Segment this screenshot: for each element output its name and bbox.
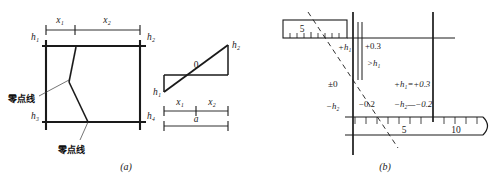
label-plus-h1: +h₁ (338, 42, 351, 52)
label-minus-value: −0.2 (359, 99, 375, 109)
wedge-zero-label: 0 (194, 60, 199, 70)
zero-line-upper (69, 47, 76, 82)
wedge-dimension-label-a: a (194, 114, 199, 124)
caption-panel-b: (b) (379, 161, 391, 173)
lower-ruler-scale-label-10: 10 (451, 125, 461, 135)
panel-a-left-diagram: x₁ x₂ h₁ h₂ h₃ h₄ 零点线 零点线 (7, 15, 156, 155)
lower-ruler-scale-label-5: 5 (402, 125, 407, 135)
corner-label-h3-bottom-left: h₃ (31, 111, 39, 121)
label-plus-value: +0.3 (365, 41, 382, 51)
annotation-zero-line-upper: 零点线 (7, 93, 35, 104)
panel-a-right-diagram: 0 h₁ h₂ x₁ x₂ a (153, 40, 241, 131)
wedge-label-h1: h₁ (153, 87, 161, 97)
corner-label-h4-bottom-right: h₄ (147, 111, 155, 121)
wedge-label-h2: h₂ (232, 40, 241, 50)
corner-label-h2-top-right: h₂ (147, 32, 156, 42)
dimension-label-x2: x₂ (102, 15, 111, 25)
technical-diagram-svg: x₁ x₂ h₁ h₂ h₃ h₄ 零点线 零点线 (0, 0, 496, 182)
annotation-zero-line-lower: 零点线 (57, 144, 85, 155)
equation-plus-h1: +h₁=+0.3 (394, 79, 431, 89)
upper-staff-scale-label: 5 (300, 24, 305, 34)
leader-line-upper-annotation (39, 80, 69, 96)
label-zero-reference: ±0 (328, 79, 338, 89)
wedge-dimension-label-x2: x₂ (207, 97, 216, 107)
figure-container: x₁ x₂ h₁ h₂ h₃ h₄ 零点线 零点线 (0, 0, 496, 182)
label-greater-than-h1: >h₁ (367, 58, 380, 68)
wedge-dimension-label-x1: x₁ (175, 97, 184, 107)
caption-panel-a: (a) (120, 161, 132, 173)
equation-minus-h2: −h₂—−0.2 (394, 99, 433, 109)
leader-line-lower-annotation (80, 122, 88, 140)
dimension-label-x1: x₁ (55, 15, 64, 25)
lower-ruler-rounded-end (483, 117, 488, 135)
panel-b-diagram: 5 (283, 12, 488, 155)
corner-label-h1-top-left: h₁ (31, 32, 39, 42)
zero-line-lower (69, 82, 88, 122)
label-minus-h2: −h₂ (326, 101, 339, 111)
